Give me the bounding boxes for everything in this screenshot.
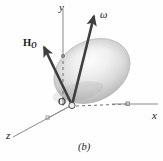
y-axis-label: y bbox=[59, 2, 64, 13]
angular-momentum-label: HO bbox=[23, 38, 37, 49]
figure-container: y x z O HO ω (b) bbox=[0, 0, 163, 161]
figure-canvas bbox=[0, 0, 163, 161]
origin-label: O bbox=[58, 96, 66, 107]
angular-velocity-label: ω bbox=[100, 10, 107, 21]
angular-momentum-symbol: H bbox=[23, 37, 31, 48]
angular-momentum-subscript: O bbox=[31, 41, 36, 50]
origin-point-marker bbox=[69, 102, 75, 108]
x-axis-label: x bbox=[152, 110, 157, 121]
z-axis-label: z bbox=[6, 130, 10, 141]
figure-caption: (b) bbox=[78, 142, 90, 153]
